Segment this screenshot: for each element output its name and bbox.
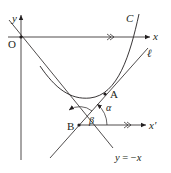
tangent-line-l (50, 48, 148, 158)
y-axis-label: y (11, 12, 17, 24)
x-prime-axis-label: x′ (148, 119, 157, 131)
point-a-label: A (110, 88, 118, 100)
tangent-line-label: ℓ (147, 47, 152, 59)
origin-label: O (8, 38, 16, 50)
point-a (103, 92, 106, 95)
x-axis-label: x (152, 30, 158, 42)
asymptote-line (9, 20, 113, 148)
asymptote-label: y = −x (114, 152, 142, 163)
angle-beta-arc (69, 107, 92, 111)
angle-beta-label: β (88, 115, 94, 126)
curve-c-label: C (126, 12, 134, 24)
angle-alpha-label: α (106, 102, 112, 113)
curve-c (40, 14, 139, 98)
diagram-canvas: y x O y = −x C ℓ A B x′ α β (0, 0, 171, 173)
point-b-label: B (67, 120, 74, 132)
